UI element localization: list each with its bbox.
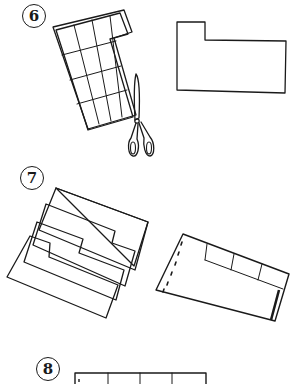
grid-sheet-step6 (53, 10, 136, 130)
tabbed-sheets-stack (7, 188, 148, 318)
bound-folder (156, 234, 289, 321)
diagram-drawing (0, 0, 294, 384)
grid-sheet-step8 (75, 373, 206, 384)
cut-shape-step6 (177, 22, 286, 93)
instruction-diagram: 6 7 8 (0, 0, 294, 384)
